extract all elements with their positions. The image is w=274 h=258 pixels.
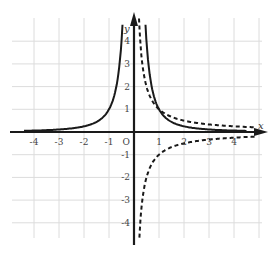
- y-axis-label: y: [123, 23, 130, 34]
- x-axis-label: x: [258, 120, 264, 131]
- solid-curve-left-branch: [24, 25, 123, 131]
- y-tick-label: -2: [121, 172, 130, 182]
- solid-curve-right-branch: [146, 25, 247, 131]
- x-tick-label: 4: [231, 137, 237, 147]
- y-tick-label: 3: [124, 59, 130, 69]
- y-tick-label: -3: [121, 195, 130, 205]
- chart-plot: -4-3-2-11234-4-3-2-11234Oxy: [0, 0, 274, 258]
- origin-label: O: [123, 137, 130, 147]
- y-tick-label: 4: [124, 36, 130, 46]
- y-tick-label: -4: [121, 218, 130, 228]
- axes: [10, 12, 268, 245]
- dashed-curve-upper: [139, 19, 257, 128]
- x-tick-label: -2: [80, 137, 89, 147]
- y-tick-label: -1: [121, 150, 130, 160]
- x-tick-label: -4: [30, 137, 39, 147]
- y-tick-label: 1: [124, 104, 130, 114]
- x-tick-label: 3: [206, 137, 212, 147]
- x-tick-label: -3: [55, 137, 64, 147]
- x-tick-label: 1: [156, 137, 162, 147]
- x-tick-label: -1: [105, 137, 114, 147]
- y-tick-label: 2: [124, 82, 130, 92]
- grid-lines: [12, 18, 262, 238]
- x-tick-label: 2: [181, 137, 187, 147]
- y-axis-arrow-icon: [130, 12, 138, 26]
